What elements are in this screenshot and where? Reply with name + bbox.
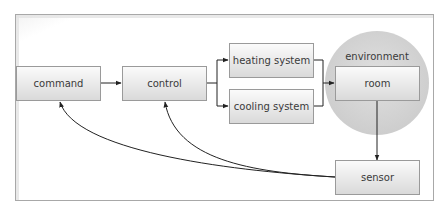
node-command: command — [17, 67, 101, 101]
frame-inner-shadow-left — [16, 15, 19, 200]
frame-inner-shadow — [16, 15, 433, 18]
node-control: control — [123, 67, 207, 101]
node-heating-system: heating system — [230, 44, 314, 78]
node-sensor: sensor — [336, 161, 420, 195]
control-loop-diagram: environment command control heating syst… — [0, 0, 448, 215]
heating-system-label: heating system — [233, 55, 310, 66]
node-cooling-system: cooling system — [230, 90, 314, 124]
environment-label: environment — [345, 51, 409, 62]
room-label: room — [365, 78, 391, 89]
cooling-system-label: cooling system — [234, 101, 309, 112]
sensor-label: sensor — [361, 172, 395, 183]
command-label: command — [34, 78, 84, 89]
node-room: room — [336, 67, 420, 101]
control-label: control — [147, 78, 182, 89]
